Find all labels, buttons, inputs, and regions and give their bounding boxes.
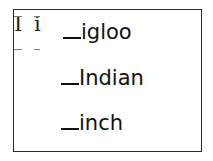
word-item: inch [61,113,123,134]
guide-dash [34,16,40,17]
uppercase-letter: I [14,14,22,35]
answer-blank[interactable] [61,82,79,85]
lowercase-letter: i [34,14,41,35]
guide-dash [14,49,22,50]
word-text: Indian [79,66,144,90]
word-text: igloo [81,20,132,44]
answer-blank[interactable] [63,36,81,39]
guide-dash [14,16,22,17]
word-item: igloo [63,22,132,43]
guide-dash [34,49,40,50]
answer-blank[interactable] [61,127,79,130]
word-item: Indian [61,68,144,89]
word-text: inch [79,111,123,135]
